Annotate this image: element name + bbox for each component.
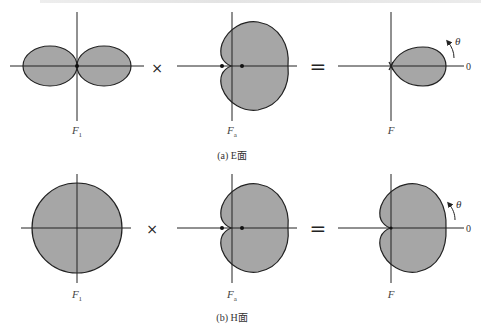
zero-angle-label: 0: [466, 61, 471, 72]
h-plane-element-pattern: [21, 174, 131, 283]
label-element-factor: F1: [72, 124, 82, 139]
rotation-arrow-icon: [449, 204, 455, 220]
label-array-factor: Fa: [227, 124, 237, 139]
e-plane-array-factor: [177, 12, 297, 121]
rotation-arrow-icon: [448, 42, 454, 58]
h-plane-array-factor: [177, 174, 297, 283]
zero-angle-label: 0: [466, 223, 471, 234]
caption-h-plane: (b) H面: [216, 309, 247, 324]
multiply-operator: ×: [151, 60, 163, 76]
label-element-factor: F1: [72, 288, 82, 303]
e-plane-element-pattern: [10, 12, 144, 121]
e-plane-total-pattern: [338, 12, 464, 121]
label-array-factor: Fa: [227, 288, 237, 303]
theta-label: θ: [456, 198, 461, 210]
equals-operator: =: [310, 54, 327, 78]
equals-operator: =: [310, 216, 327, 240]
label-total-pattern: F: [388, 124, 395, 139]
label-total-pattern: F: [388, 288, 395, 303]
h-plane-total-pattern: [338, 174, 464, 283]
theta-label: θ: [455, 35, 460, 47]
pattern-multiplication-diagram: [0, 0, 481, 327]
multiply-operator: ×: [146, 221, 158, 237]
caption-e-plane: (a) E面: [217, 147, 247, 162]
